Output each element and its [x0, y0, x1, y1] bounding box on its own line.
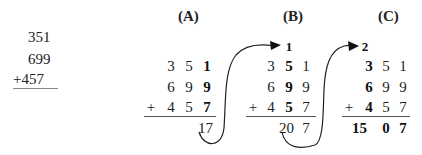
carry-arrow-a-to-b: [199, 45, 274, 144]
carry-arrow-b-to-c: [282, 45, 352, 147]
carry-arrows: [0, 0, 422, 155]
arrowhead-icon: [348, 41, 359, 51]
arrowhead-icon: [270, 41, 281, 50]
